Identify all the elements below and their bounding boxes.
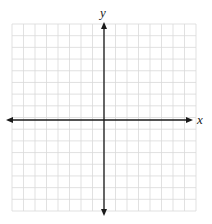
x-axis-arrow-left-icon — [6, 117, 13, 123]
y-axis-label: y — [98, 5, 106, 20]
y-axis-arrow-up-icon — [101, 22, 107, 29]
coordinate-plane: x y — [0, 0, 212, 224]
y-axis-arrow-down-icon — [101, 209, 107, 216]
axes — [6, 22, 193, 216]
x-axis-label: x — [196, 112, 203, 127]
